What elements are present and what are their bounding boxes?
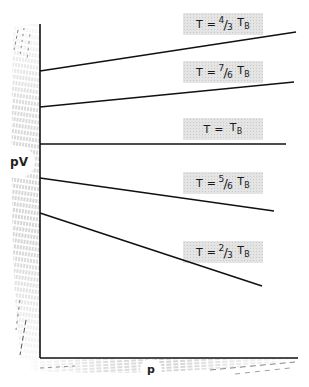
y-axis-label: pV [3, 146, 35, 178]
isotherm-line-t-2-3 [40, 213, 262, 286]
isotherm-line-t-4-3 [40, 32, 296, 71]
isotherm-lines-overlay [0, 0, 309, 387]
isotherm-line-t-7-6 [40, 82, 294, 107]
isotherm-line-t-5-6 [40, 178, 274, 211]
x-axis-label: p [140, 359, 162, 379]
